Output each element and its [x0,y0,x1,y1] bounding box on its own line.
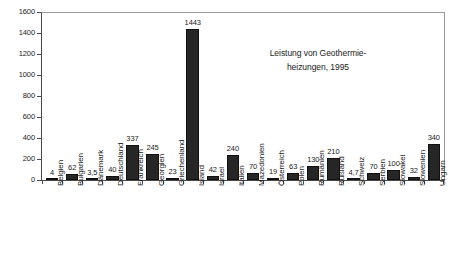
bar-group[interactable]: 1443 [183,12,203,180]
x-axis-label-cell: Serbien [364,186,384,252]
y-axis-tick-mark [37,138,41,139]
y-axis-tick-label: 1000 [19,70,35,79]
y-axis-tick-label: 200 [23,154,35,163]
x-axis-label: Dänemark [96,150,105,186]
x-axis-label: Slowenien [417,150,426,186]
y-axis-tick-label: 600 [23,112,35,121]
x-axis-label: Italien [236,165,245,186]
y-axis-tick-mark [37,12,41,13]
y-axis-tick-mark [37,117,41,118]
bar-group[interactable]: 340 [424,12,444,180]
x-axis-label: Belgien [56,160,65,186]
bar-value-label: 210 [327,147,339,156]
x-axis-label: Polen [297,166,306,186]
chart-annotation-line-2: heizungen, 1995 [228,60,408,74]
x-axis-label-cell: Deutschland [102,186,122,252]
x-axis-label: Slowakei [397,155,406,186]
bar-value-label: 4 [50,168,54,177]
bar-group[interactable]: 4,7 [343,12,363,180]
bar-value-label: 340 [428,133,440,142]
y-axis-tick-mark [37,75,41,76]
x-axis-label: Ungarn [437,160,446,186]
x-axis-label-cell: Ungarn [424,186,444,252]
x-axis-label: Frankreich [136,149,145,186]
x-axis-label: Island [196,165,205,186]
bar-value-label: 245 [146,143,158,152]
x-axis-label-cell: Polen [283,186,303,252]
x-axis-label-cell: Griechenland [163,186,183,252]
y-axis-tick-mark [37,159,41,160]
x-axis-label: Serbien [377,159,386,186]
y-axis-tick-label: 1400 [19,28,35,37]
x-axis-label: Rußland [337,156,346,186]
bar[interactable] [186,29,198,181]
x-axis-label-cell: Frankreich [122,186,142,252]
bar-group[interactable]: 210 [323,12,343,180]
chart-annotation-line-1: Leistung von Geothermie- [228,46,408,60]
x-axis-labels: BelgienBulgarienDänemarkDeutschlandFrank… [42,186,444,252]
x-axis-label-cell: Österreich [263,186,283,252]
x-axis-label-cell: Israel [203,186,223,252]
x-axis-label: Rumänien [317,150,326,186]
y-axis-tick-mark [37,54,41,55]
y-axis-tick-label: 800 [23,91,35,100]
bar-value-label: 23 [169,167,177,176]
x-axis-label: Schweiz [357,157,366,186]
y-axis-tick-mark [37,33,41,34]
x-axis-label-cell: Belgien [42,186,62,252]
bar-group[interactable]: 70 [364,12,384,180]
y-axis: 16001400120010008006004002000 [0,12,41,181]
x-axis-label: Bulgarien [76,153,85,186]
bar-group[interactable]: 42 [203,12,223,180]
bar-value-label: 70 [369,162,377,171]
x-axis-label-cell: Slowakei [384,186,404,252]
x-axis-label-cell: Rumänien [303,186,323,252]
bar-chart: 16001400120010008006004002000 4623,54033… [0,0,457,255]
y-axis-tick-label: 400 [23,133,35,142]
x-axis-label-cell: Dänemark [82,186,102,252]
bar-value-label: 1443 [185,18,201,27]
x-axis-label: Georgien [156,154,165,186]
x-axis-label-cell: Georgien [142,186,162,252]
y-axis-tick-label: 1600 [19,7,35,16]
chart-annotation: Leistung von Geothermie- heizungen, 1995 [228,46,408,74]
x-axis-label-cell: Island [183,186,203,252]
bar-value-label: 240 [227,144,239,153]
x-axis-label-cell: Bulgarien [62,186,82,252]
bar-value-label: 337 [126,134,138,143]
x-axis-label: Mazedonien [256,143,265,186]
y-axis-tick-label: 1200 [19,49,35,58]
x-axis-label-cell: Italien [223,186,243,252]
x-axis-label-cell: Rußland [323,186,343,252]
x-axis-label: Griechenland [176,140,185,186]
y-axis-tick-mark [37,180,41,181]
bar-group[interactable]: 63 [283,12,303,180]
x-axis-tick-mark [42,181,43,184]
bar-group[interactable]: 4 [42,12,62,180]
x-axis-label-cell: Slowenien [404,186,424,252]
y-axis-tick-label: 0 [31,175,35,184]
x-axis-label-cell: Schweiz [343,186,363,252]
x-axis-label-cell: Mazedonien [243,186,263,252]
x-axis-label: Österreich [277,150,286,186]
y-axis-tick-mark [37,96,41,97]
bar-group[interactable]: 240 [223,12,243,180]
x-axis-label: Israel [216,167,225,186]
x-axis-label: Deutschland [116,143,125,186]
